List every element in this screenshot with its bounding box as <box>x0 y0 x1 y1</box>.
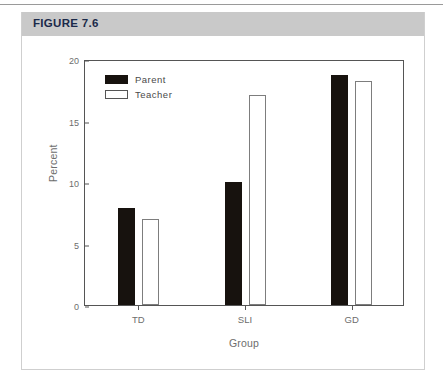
y-tick-label: 0 <box>74 302 79 312</box>
x-tick-mark <box>245 305 246 310</box>
y-tick-label: 15 <box>69 118 79 128</box>
bar-sli-parent <box>225 182 242 305</box>
page-top-rule <box>0 4 443 5</box>
legend-swatch-teacher <box>105 90 128 99</box>
x-tick-label: GD <box>345 314 359 325</box>
x-tick-mark <box>138 305 139 310</box>
legend-item-teacher: Teacher <box>105 88 172 101</box>
x-tick-label: SLI <box>238 314 252 325</box>
bar-gd-teacher <box>355 81 372 305</box>
y-tick-mark <box>85 245 89 246</box>
y-tick-label: 20 <box>69 56 79 66</box>
legend-label: Teacher <box>135 89 172 100</box>
legend-item-parent: Parent <box>105 73 172 86</box>
y-tick-mark <box>85 184 89 185</box>
bar-sli-teacher <box>249 95 266 305</box>
legend-label: Parent <box>135 74 166 85</box>
bar-td-parent <box>118 208 135 305</box>
legend-swatch-parent <box>105 75 128 84</box>
x-tick-label: TD <box>132 314 145 325</box>
chart-plot-area: 05101520 TDSLIGD ParentTeacher Group <box>84 60 404 306</box>
figure-title: FIGURE 7.6 <box>33 17 99 29</box>
bar-td-teacher <box>142 219 159 305</box>
y-tick-label: 5 <box>74 241 79 251</box>
y-tick-label: 10 <box>69 179 79 189</box>
y-tick-mark <box>85 61 89 62</box>
x-tick-mark <box>352 305 353 310</box>
y-tick-mark <box>85 122 89 123</box>
x-axis-title: Group <box>85 337 403 349</box>
figure-card: FIGURE 7.6 Percent 05101520 TDSLIGD Pare… <box>21 12 425 370</box>
chart-legend: ParentTeacher <box>105 73 172 103</box>
bar-gd-parent <box>331 75 348 305</box>
y-axis-title: Percent <box>47 144 59 182</box>
y-tick-mark <box>85 307 89 308</box>
